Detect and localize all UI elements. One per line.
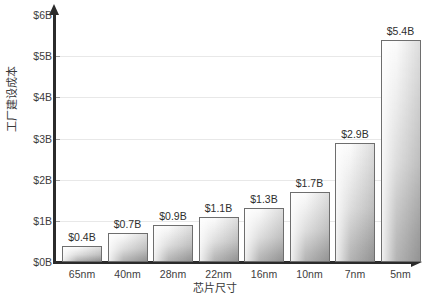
bar — [62, 246, 102, 262]
y-tick-mark — [56, 180, 60, 181]
bar — [199, 217, 239, 262]
bar-chart: 工厂建设成本 芯片尺寸 $0B$1B$2B$3B$4B$5B$6B$0.4B65… — [0, 0, 430, 295]
y-tick-label: $6B — [18, 10, 52, 20]
y-tick-label: $3B — [18, 134, 52, 144]
bar-value-label: $1.3B — [234, 194, 294, 205]
gridline — [59, 97, 404, 98]
y-tick-mark — [56, 221, 60, 222]
y-tick-label: $0B — [18, 257, 52, 267]
gridline — [59, 56, 404, 57]
bar-value-label: $0.4B — [52, 232, 112, 243]
bar-value-label: $2.9B — [325, 129, 385, 140]
bar-value-label: $5.4B — [371, 26, 430, 37]
y-tick-mark — [56, 97, 60, 98]
bar — [381, 40, 421, 262]
y-axis-title: 工厂建设成本 — [5, 49, 19, 149]
bar-value-label: $1.7B — [280, 178, 340, 189]
bar — [335, 143, 375, 262]
bar — [108, 233, 148, 262]
y-tick-mark — [56, 56, 60, 57]
y-tick-label: $1B — [18, 216, 52, 226]
bar — [244, 208, 284, 262]
x-axis-title: 芯片尺寸 — [0, 279, 430, 295]
y-tick-label: $5B — [18, 51, 52, 61]
y-tick-label: $2B — [18, 175, 52, 185]
y-tick-label: $4B — [18, 92, 52, 102]
bar — [153, 225, 193, 262]
x-tick-label: 5nm — [371, 269, 430, 280]
y-tick-mark — [56, 139, 60, 140]
bar — [290, 192, 330, 262]
